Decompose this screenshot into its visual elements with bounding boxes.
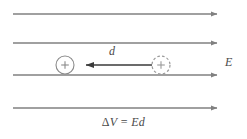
equation-distance-symbol: d <box>139 115 145 129</box>
equation-delta: Δ <box>102 115 110 129</box>
charge-initial <box>152 56 170 74</box>
field-label: E <box>225 56 232 68</box>
equation-field-symbol: E <box>131 115 139 129</box>
charge-final <box>56 56 74 74</box>
equation-voltage-symbol: V <box>110 115 118 129</box>
equation-equals: = <box>121 115 128 129</box>
field-line-group <box>13 14 217 108</box>
equation-potential-difference: ΔV = Ed <box>0 116 247 128</box>
displacement-label: d <box>109 45 115 57</box>
electric-field-diagram: d E ΔV = Ed <box>0 0 247 139</box>
